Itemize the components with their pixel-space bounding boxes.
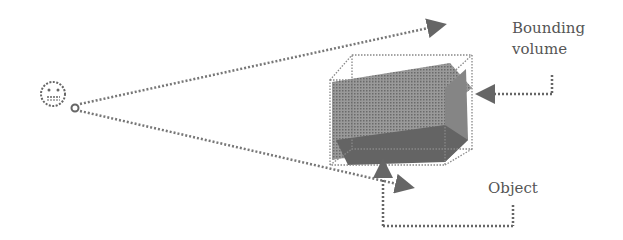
label-bounding-volume-line2: volume (512, 39, 585, 60)
viewpoint-icon (72, 105, 79, 112)
object-shape (332, 63, 472, 165)
label-object: Object (488, 178, 538, 199)
label-bounding-volume-line1: Bounding (512, 18, 585, 39)
neutral-face-icon (41, 82, 65, 106)
label-bounding-volume: Bounding volume (512, 18, 585, 60)
bounding-volume-callout (480, 75, 552, 94)
